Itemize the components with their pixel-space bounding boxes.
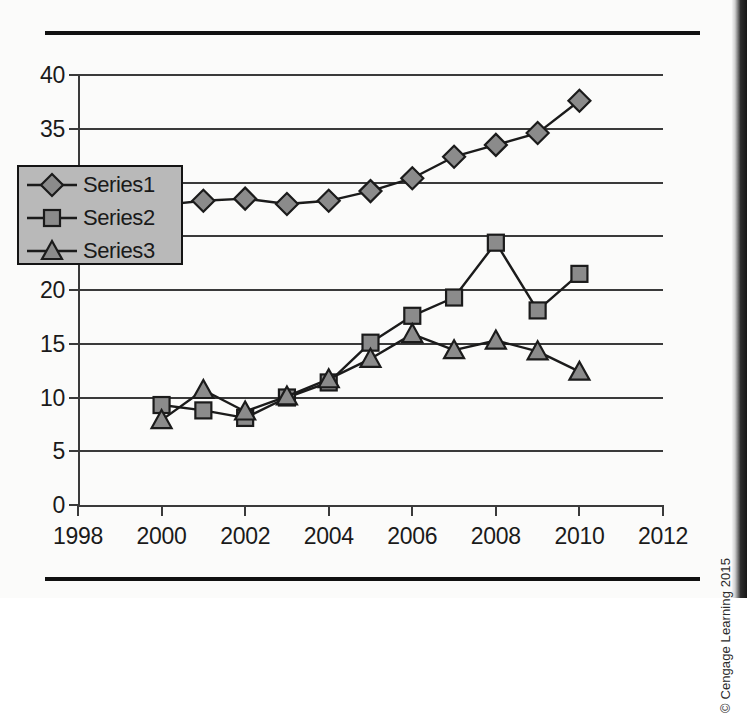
data-marker-diamond bbox=[192, 190, 214, 212]
x-axis-tick bbox=[77, 505, 79, 516]
x-axis-tick-label: 2010 bbox=[554, 523, 604, 550]
legend-swatch-diamond bbox=[25, 172, 79, 198]
data-series-layer bbox=[78, 75, 663, 505]
data-marker-diamond bbox=[234, 188, 256, 210]
y-axis-tick bbox=[69, 343, 78, 345]
data-marker-diamond bbox=[41, 174, 63, 196]
data-marker-triangle bbox=[193, 380, 213, 398]
legend-label: Series3 bbox=[83, 238, 155, 264]
x-axis-tick-label: 2008 bbox=[471, 523, 521, 550]
x-axis-tick bbox=[328, 505, 330, 516]
chart-legend: Series1Series2Series3 bbox=[17, 165, 183, 265]
x-axis-tick-label: 2006 bbox=[387, 523, 437, 550]
copyright-notice: © Cengage Learning 2015 bbox=[718, 558, 733, 713]
data-marker-square bbox=[446, 290, 462, 306]
y-axis-tick bbox=[69, 450, 78, 452]
data-marker-diamond bbox=[276, 193, 298, 215]
data-marker-square bbox=[488, 235, 504, 251]
series-group-series1 bbox=[151, 90, 591, 216]
data-marker-square bbox=[530, 302, 546, 318]
y-axis-tick-label: 20 bbox=[40, 277, 65, 304]
x-axis-line bbox=[78, 505, 663, 507]
top-divider-rule bbox=[45, 31, 700, 35]
data-marker-diamond bbox=[485, 134, 507, 156]
data-marker-square bbox=[571, 266, 587, 282]
data-marker-triangle bbox=[569, 362, 589, 380]
page-edge-shadow bbox=[731, 0, 747, 598]
data-marker-triangle bbox=[402, 324, 422, 342]
legend-item-series2[interactable]: Series2 bbox=[19, 201, 181, 234]
data-marker-triangle bbox=[486, 331, 506, 349]
legend-swatch-square bbox=[25, 205, 79, 231]
data-marker-diamond bbox=[360, 180, 382, 202]
x-axis-tick bbox=[495, 505, 497, 516]
y-axis-tick-label: 15 bbox=[40, 330, 65, 357]
legend-item-series3[interactable]: Series3 bbox=[19, 234, 181, 267]
y-axis-tick-label: 40 bbox=[40, 62, 65, 89]
data-marker-square bbox=[195, 402, 211, 418]
legend-label: Series1 bbox=[83, 172, 155, 198]
x-axis-tick-label: 2000 bbox=[137, 523, 187, 550]
y-axis-tick bbox=[69, 74, 78, 76]
x-axis-tick-label: 2004 bbox=[304, 523, 354, 550]
x-axis-tick bbox=[161, 505, 163, 516]
series-line-series2 bbox=[162, 243, 580, 418]
y-axis-tick bbox=[69, 128, 78, 130]
data-marker-diamond bbox=[318, 190, 340, 212]
line-chart-plot-area: 0510152025303540 19982000200220042006200… bbox=[78, 75, 663, 505]
x-axis-tick bbox=[662, 505, 664, 516]
y-axis-tick-label: 35 bbox=[40, 115, 65, 142]
data-marker-square bbox=[44, 210, 60, 226]
x-axis-tick bbox=[578, 505, 580, 516]
y-axis-tick bbox=[69, 397, 78, 399]
x-axis-tick bbox=[244, 505, 246, 516]
data-marker-square bbox=[404, 308, 420, 324]
x-axis-tick-label: 2012 bbox=[638, 523, 688, 550]
data-marker-diamond bbox=[568, 90, 590, 112]
legend-item-series1[interactable]: Series1 bbox=[19, 168, 181, 201]
y-axis-tick-label: 10 bbox=[40, 384, 65, 411]
data-marker-diamond bbox=[527, 122, 549, 144]
legend-swatch-triangle bbox=[25, 238, 79, 264]
x-axis-tick-label: 2002 bbox=[220, 523, 270, 550]
data-marker-diamond bbox=[401, 167, 423, 189]
x-axis-tick-label: 1998 bbox=[53, 523, 103, 550]
y-axis-tick bbox=[69, 289, 78, 291]
y-axis-tick-label: 0 bbox=[53, 492, 66, 519]
bottom-divider-rule bbox=[45, 577, 700, 581]
data-marker-diamond bbox=[443, 146, 465, 168]
y-axis-tick-label: 5 bbox=[53, 438, 66, 465]
x-axis-tick bbox=[411, 505, 413, 516]
legend-label: Series2 bbox=[83, 205, 155, 231]
